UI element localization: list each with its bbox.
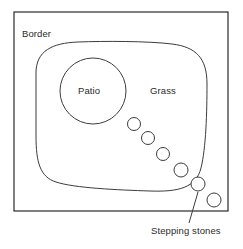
stepping-stones-label: Stepping stones (151, 225, 221, 236)
stepping-stones-leader-line (189, 192, 198, 223)
stepping-stone-6 (207, 193, 221, 207)
patio-label: Patio (78, 85, 100, 96)
stepping-stone-2 (142, 132, 155, 145)
stepping-stone-5 (191, 177, 205, 191)
border-label: Border (22, 28, 51, 39)
grass-label: Grass (150, 85, 176, 96)
stepping-stone-1 (128, 118, 141, 131)
stepping-stone-3 (157, 148, 170, 161)
garden-layout-diagram: Border Patio Grass Stepping stones (0, 0, 243, 249)
stepping-stone-4 (174, 163, 188, 177)
